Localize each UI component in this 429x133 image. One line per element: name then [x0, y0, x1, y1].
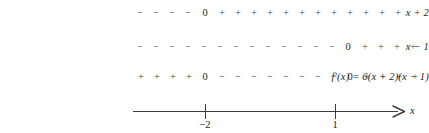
sign-cell-plus: +: [359, 4, 373, 22]
sign-cell-minus: −: [165, 38, 179, 56]
sign-track: ++++0−−−−−−−−0++++: [133, 68, 405, 86]
sign-cell-plus: +: [408, 68, 422, 86]
sign-cell-minus: −: [293, 38, 307, 56]
sign-cell-plus: +: [390, 38, 404, 56]
sign-cell-plus: +: [343, 4, 357, 22]
sign-cell-plus: +: [374, 38, 388, 56]
sign-cell-minus: −: [215, 68, 229, 86]
sign-row-x-plus-2: x + 2 −−−−0++++++++++++: [0, 4, 429, 22]
sign-cell-plus: +: [406, 38, 420, 56]
sign-cell-plus: +: [231, 4, 245, 22]
sign-cell-minus: −: [165, 4, 179, 22]
sign-cell-zero: 0: [343, 68, 357, 86]
sign-cell-minus: −: [245, 38, 259, 56]
sign-cell-minus: −: [213, 38, 227, 56]
sign-cell-minus: −: [133, 4, 147, 22]
sign-cell-minus: −: [181, 4, 195, 22]
sign-cell-minus: −: [261, 38, 275, 56]
sign-cell-plus: +: [166, 68, 180, 86]
sign-cell-minus: −: [133, 38, 147, 56]
axis-line: [133, 111, 398, 112]
sign-cell-plus: +: [263, 4, 277, 22]
sign-cell-plus: +: [392, 68, 406, 86]
sign-cell-plus: +: [358, 38, 372, 56]
sign-track: −−−−0++++++++++++: [133, 4, 405, 22]
sign-cell-minus: −: [181, 38, 195, 56]
sign-cell-minus: −: [277, 38, 291, 56]
sign-cell-plus: +: [327, 4, 341, 22]
axis-tick-neg2: [205, 104, 206, 119]
sign-cell-plus: +: [134, 68, 148, 86]
sign-cell-minus: −: [231, 68, 245, 86]
sign-cell-minus: −: [197, 38, 211, 56]
sign-cell-plus: +: [247, 4, 261, 22]
sign-cell-minus: −: [327, 68, 341, 86]
sign-cell-plus: +: [295, 4, 309, 22]
sign-track: −−−−−−−−−−−−−0++++: [133, 38, 405, 56]
sign-cell-minus: −: [247, 68, 261, 86]
sign-row-x-minus-1: x − 1 −−−−−−−−−−−−−0++++: [0, 38, 429, 56]
sign-row-derivative: f′(x) = 6(x + 2)(x − 1) ++++0−−−−−−−−0++…: [0, 68, 429, 86]
sign-cell-minus: −: [149, 38, 163, 56]
sign-cell-minus: −: [325, 38, 339, 56]
sign-cell-minus: −: [295, 68, 309, 86]
axis-variable-label: x: [410, 103, 415, 118]
sign-cell-plus: +: [215, 4, 229, 22]
arrow-right-icon: [392, 104, 406, 119]
sign-cell-zero: 0: [198, 4, 212, 22]
number-line: x −2 1: [0, 100, 429, 133]
sign-cell-minus: −: [279, 68, 293, 86]
derivative-sign-chart: x + 2 −−−−0++++++++++++ x − 1 −−−−−−−−−−…: [0, 0, 429, 133]
sign-cell-minus: −: [263, 68, 277, 86]
axis-tick-one: [335, 104, 336, 119]
sign-cell-plus: +: [182, 68, 196, 86]
sign-cell-minus: −: [149, 4, 163, 22]
sign-cell-plus: +: [279, 4, 293, 22]
sign-cell-minus: −: [309, 38, 323, 56]
sign-cell-minus: −: [229, 38, 243, 56]
sign-cell-plus: +: [391, 4, 405, 22]
axis-tick-label-one: 1: [315, 118, 355, 132]
sign-cell-zero: 0: [198, 68, 212, 86]
sign-cell-plus: +: [311, 4, 325, 22]
sign-cell-plus: +: [150, 68, 164, 86]
sign-cell-zero: 0: [341, 38, 355, 56]
sign-cell-plus: +: [376, 68, 390, 86]
sign-cell-plus: +: [360, 68, 374, 86]
axis-tick-label-neg2: −2: [185, 118, 225, 132]
sign-cell-minus: −: [311, 68, 325, 86]
sign-cell-plus: +: [375, 4, 389, 22]
